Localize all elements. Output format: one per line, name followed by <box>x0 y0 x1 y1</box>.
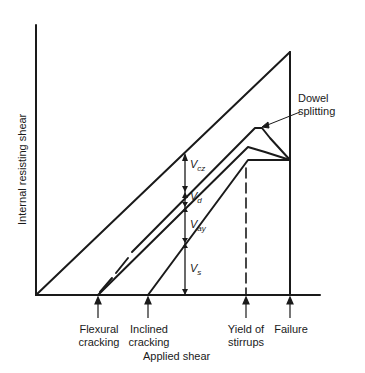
y-axis-label: Internal resisting shear <box>16 114 28 225</box>
shear-diagram <box>0 0 365 373</box>
vcz-label: Vcz <box>190 158 205 173</box>
yield-of-stirrups-label: Yield ofstirrups <box>220 323 272 349</box>
failure-label: Failure <box>270 323 312 336</box>
flexural-cracking-label: Flexuralcracking <box>74 323 124 349</box>
vd-label: Vd <box>190 190 202 205</box>
dowel-splitting-label: Dowel splitting <box>298 92 335 118</box>
vs-label: Vs <box>190 262 201 277</box>
vay-label: Vay <box>190 218 206 233</box>
inclined-cracking-label: Inclinedcracking <box>124 323 174 349</box>
x-axis-label: Applied shear <box>143 350 210 363</box>
vd-curve <box>132 128 290 252</box>
vd-curve-dashed <box>100 258 128 292</box>
total-shear-line <box>36 52 290 295</box>
vs-curve <box>148 160 290 295</box>
